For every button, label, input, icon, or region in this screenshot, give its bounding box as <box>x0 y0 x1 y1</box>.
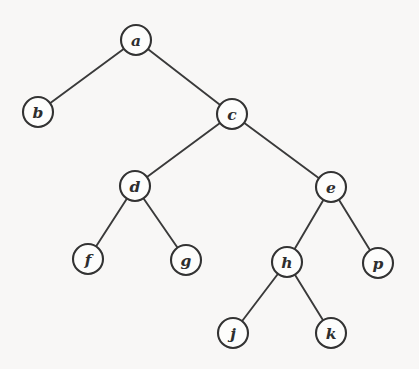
tree-node-f[interactable]: f <box>73 244 103 274</box>
tree-edge-a-c <box>147 49 220 105</box>
tree-diagram-canvas: abcdefghpjk <box>0 0 419 369</box>
tree-node-label-c: c <box>227 105 237 124</box>
tree-node-label-k: k <box>326 324 337 343</box>
tree-node-b[interactable]: b <box>23 97 53 127</box>
tree-node-label-p: p <box>373 254 384 273</box>
tree-diagram-figure: abcdefghpjk <box>0 0 419 369</box>
tree-node-label-h: h <box>281 253 292 272</box>
tree-node-k[interactable]: k <box>316 318 346 348</box>
tree-node-j[interactable]: j <box>218 318 248 348</box>
tree-edge-c-d <box>147 123 221 178</box>
tree-edge-d-g <box>143 198 178 248</box>
tree-edge-d-f <box>96 198 127 247</box>
tree-edge-a-b <box>50 49 125 104</box>
tree-edge-h-j <box>242 274 278 322</box>
tree-node-c[interactable]: c <box>217 99 247 129</box>
tree-node-h[interactable]: h <box>272 247 302 277</box>
tree-node-p[interactable]: p <box>363 248 393 278</box>
tree-node-layer: abcdefghpjk <box>23 25 393 348</box>
tree-node-e[interactable]: e <box>316 172 346 202</box>
tree-node-label-g: g <box>181 251 192 270</box>
tree-node-label-a: a <box>131 31 141 50</box>
tree-edge-e-p <box>339 199 371 250</box>
tree-node-a[interactable]: a <box>121 25 151 55</box>
tree-edge-c-e <box>244 123 320 179</box>
tree-node-d[interactable]: d <box>120 171 150 201</box>
tree-node-label-e: e <box>326 178 336 197</box>
tree-node-g[interactable]: g <box>171 245 201 275</box>
tree-edge-e-h <box>294 200 323 250</box>
tree-edge-h-k <box>295 274 324 320</box>
tree-node-label-b: b <box>33 103 44 122</box>
tree-node-label-d: d <box>130 177 141 196</box>
